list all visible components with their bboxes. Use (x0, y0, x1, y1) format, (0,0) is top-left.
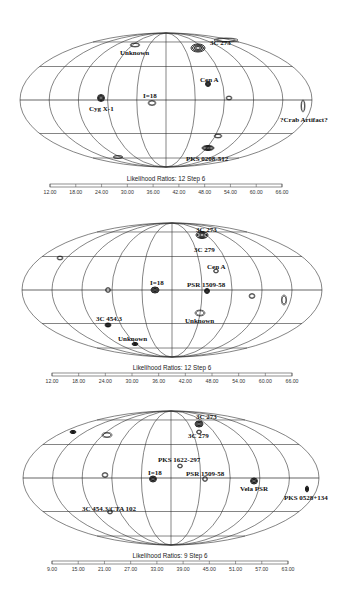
colorbar-tick-label: 36.00 (147, 190, 160, 195)
source-label: 3C 454.3/CTA 102 (82, 506, 136, 513)
colorbar-tick-label: 18.00 (72, 379, 85, 384)
colorbar-tick-label: 21.00 (98, 567, 111, 572)
colorbar-tick-label: 24.00 (95, 190, 108, 195)
contour-blob (134, 343, 136, 344)
colorbar-tick-label: 33.00 (150, 567, 163, 572)
colorbar-tick-label: 60.00 (250, 190, 263, 195)
source-label: Unknown (118, 336, 147, 343)
source-label: 3C 273 (196, 414, 217, 421)
contour-blob (301, 101, 304, 110)
source-label: Cen A (207, 264, 225, 271)
colorbar-tick-label: 63.00 (282, 567, 295, 572)
contour-blob (282, 296, 286, 304)
colorbar-tick-label: 57.00 (255, 567, 268, 572)
colorbar-tick-label: 18.00 (69, 190, 82, 195)
contour-blob (152, 478, 154, 480)
colorbar-title-1: Likelihood Ratios: 12 Step 6 (127, 176, 205, 182)
colorbar-tick-label: 66.00 (286, 379, 299, 384)
colorbar-tick-label: 24.00 (99, 379, 112, 384)
contour-blob (100, 97, 102, 99)
contour-blob (103, 473, 108, 477)
colorbar-tick-label: 42.00 (179, 379, 192, 384)
colorbar-tick-label: 48.00 (206, 379, 219, 384)
source-label: PKS 1622-297 (158, 457, 200, 464)
colorbar-tick-label: 30.00 (121, 190, 134, 195)
colorbar-title-3: Likelihood Ratios: 9 Step 6 (133, 553, 208, 559)
source-label: Unknown (185, 318, 214, 325)
contour-blob (250, 294, 255, 298)
source-label: Unknown (120, 50, 149, 57)
source-label: I=18 (150, 280, 164, 287)
contour-blob (103, 433, 111, 437)
colorbar-tick-label: 39.00 (177, 567, 190, 572)
colorbar-1 (50, 184, 282, 187)
colorbar-tick-label: 54.00 (232, 379, 245, 384)
colorbar-tick-label: 15.00 (72, 567, 85, 572)
colorbar-tick-label: 27.00 (124, 567, 137, 572)
colorbar-title-2: Likelihood Ratios: 12 Step 6 (133, 365, 211, 371)
colorbar-tick-label: 36.00 (152, 379, 165, 384)
contour-blob (253, 480, 255, 482)
colorbar-tick-label: 51.00 (229, 567, 242, 572)
colorbar-tick-label: 12.00 (46, 379, 59, 384)
contour-blob (149, 101, 155, 105)
contour-blob (72, 431, 74, 432)
source-label: 3C 273 (196, 227, 217, 234)
colorbar-tick-label: 30.00 (126, 379, 139, 384)
colorbar-tick-label: 60.00 (259, 379, 272, 384)
colorbar-tick-label: 66.00 (276, 190, 289, 195)
contour-blob (306, 488, 307, 490)
source-label: Vela PSR (240, 486, 268, 493)
colorbar-tick-label: 9.00 (47, 567, 57, 572)
source-label: PKS 0208-512 (186, 156, 228, 163)
colorbar-3 (52, 561, 288, 564)
colorbar-tick-label: 42.00 (172, 190, 185, 195)
colorbar-2 (52, 373, 292, 376)
source-label: 3C 279 (188, 433, 209, 440)
source-label: Cyg X-1 (89, 106, 114, 113)
source-label: I=18 (143, 93, 157, 100)
colorbar-tick-label: 54.00 (224, 190, 237, 195)
contour-blob (178, 464, 182, 467)
sky-map-1 (20, 33, 312, 187)
contour-blob (58, 256, 63, 259)
source-label: Cen A (200, 77, 218, 84)
contour-blob (227, 96, 232, 99)
contour-blob (107, 324, 109, 325)
colorbar-tick-label: 48.00 (198, 190, 211, 195)
source-label: PSR 1509-58 (187, 282, 225, 289)
source-label: 3C 454.3 (96, 316, 122, 323)
contour-blob (215, 134, 221, 137)
sky-maps (0, 0, 351, 599)
source-label: 3C 273 (210, 40, 231, 47)
sky-map-2 (22, 223, 322, 376)
colorbar-tick-label: 45.00 (203, 567, 216, 572)
sky-map-3 (23, 411, 319, 564)
contour-blob (198, 423, 201, 425)
source-label: PKS 0528+134 (284, 495, 328, 502)
contour-blob (206, 290, 208, 292)
source-label: I=18 (148, 470, 162, 477)
contour-blob (196, 47, 201, 50)
source-label: PSR 1509-58 (186, 471, 224, 478)
source-label: ?Crab Artifact? (280, 117, 328, 124)
colorbar-tick-label: 12.00 (44, 190, 57, 195)
contour-blob (200, 234, 204, 236)
source-label: 3C 279 (194, 247, 215, 254)
